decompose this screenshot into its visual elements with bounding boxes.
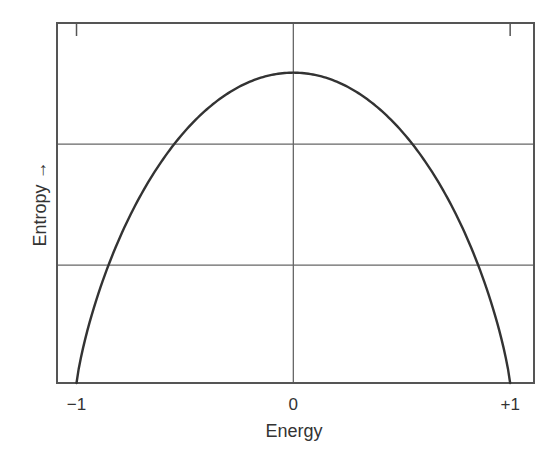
x-tick-label: +1 — [500, 395, 519, 414]
plot-frame — [57, 23, 534, 383]
x-axis-label: Energy — [265, 421, 322, 441]
x-tick-label: 0 — [289, 395, 298, 414]
entropy-energy-chart: −10+1 Energy Entropy → — [0, 0, 559, 465]
x-tick-labels: −10+1 — [67, 395, 520, 414]
y-axis-label: Entropy → — [30, 161, 50, 246]
x-tick-label: −1 — [67, 395, 86, 414]
gridlines — [57, 23, 534, 383]
